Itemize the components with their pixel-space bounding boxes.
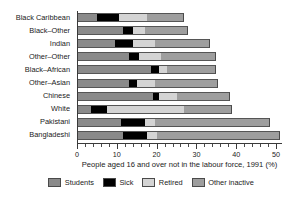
bar-segment-sick bbox=[129, 52, 139, 61]
category-label: Black Caribbean bbox=[0, 14, 70, 22]
bar-row bbox=[77, 105, 232, 114]
legend-label: Retired bbox=[159, 178, 183, 187]
bar-segment-retired bbox=[145, 118, 155, 127]
category-label: Bangladeshi bbox=[0, 131, 70, 139]
x-tick-minor bbox=[149, 144, 150, 147]
x-tick-minor bbox=[93, 144, 94, 147]
bar-segment-retired bbox=[137, 79, 155, 88]
legend-swatch-retired bbox=[142, 178, 155, 187]
category-label: Other–Asian bbox=[0, 79, 70, 87]
x-tick-major bbox=[117, 144, 118, 149]
plot-area bbox=[77, 11, 282, 142]
category-label: Indian bbox=[0, 40, 70, 48]
bar-segment-students bbox=[77, 65, 151, 74]
bar-segment-sick bbox=[115, 39, 133, 48]
bar-segment-other-inactive bbox=[145, 26, 189, 35]
bar-segment-other-inactive bbox=[155, 39, 211, 48]
bar-segment-students bbox=[77, 131, 123, 140]
bar-row bbox=[77, 79, 218, 88]
x-tick-minor bbox=[165, 144, 166, 147]
x-tick-minor bbox=[101, 144, 102, 147]
x-tick-major bbox=[77, 144, 78, 149]
bar-segment-sick bbox=[123, 26, 133, 35]
category-label: Other–Other bbox=[0, 53, 70, 61]
legend-label: Sick bbox=[119, 178, 133, 187]
category-label: Chinese bbox=[0, 92, 70, 100]
bar-segment-students bbox=[77, 26, 123, 35]
bar-segment-retired bbox=[139, 52, 161, 61]
category-label: Pakistani bbox=[0, 118, 70, 126]
stacked-bar-chart: Black CaribbeanBlack–OtherIndianOther–Ot… bbox=[0, 0, 302, 203]
x-tick-label: 0 bbox=[75, 150, 79, 159]
bar-segment-retired bbox=[133, 26, 145, 35]
bar-segment-retired bbox=[159, 92, 177, 101]
bar-segment-sick bbox=[121, 118, 145, 127]
x-tick-minor bbox=[244, 144, 245, 147]
x-tick-minor bbox=[220, 144, 221, 147]
legend-swatch-students bbox=[48, 178, 61, 187]
bar-row bbox=[77, 92, 230, 101]
bar-segment-students bbox=[77, 105, 91, 114]
x-tick-minor bbox=[109, 144, 110, 147]
bar-segment-retired bbox=[133, 39, 155, 48]
bar-row bbox=[77, 52, 216, 61]
legend-label: Other inactive bbox=[208, 178, 254, 187]
bar-segment-students bbox=[77, 92, 153, 101]
y-axis-line bbox=[77, 11, 78, 144]
bar-segment-sick bbox=[123, 131, 147, 140]
x-tick-minor bbox=[173, 144, 174, 147]
x-tick-minor bbox=[85, 144, 86, 147]
legend-swatch-sick bbox=[103, 178, 116, 187]
legend-item: Students bbox=[48, 178, 94, 187]
legend-swatch-other-inactive bbox=[192, 178, 205, 187]
bar-segment-sick bbox=[97, 13, 119, 22]
x-tick-label: 50 bbox=[272, 150, 280, 159]
x-tick-major bbox=[236, 144, 237, 149]
x-axis-label: People aged 16 and over not in the labou… bbox=[77, 160, 282, 169]
category-label: White bbox=[0, 105, 70, 113]
x-tick-minor bbox=[125, 144, 126, 147]
bar-segment-sick bbox=[151, 65, 159, 74]
x-tick-minor bbox=[228, 144, 229, 147]
legend-item: Sick bbox=[103, 178, 133, 187]
bar-segment-other-inactive bbox=[155, 79, 219, 88]
bar-segment-other-inactive bbox=[167, 65, 217, 74]
bar-row bbox=[77, 118, 270, 127]
bar-row bbox=[77, 13, 184, 22]
x-tick-major bbox=[196, 144, 197, 149]
bar-segment-other-inactive bbox=[157, 131, 280, 140]
x-tick-minor bbox=[204, 144, 205, 147]
bar-segment-students bbox=[77, 118, 121, 127]
bar-segment-other-inactive bbox=[184, 105, 232, 114]
x-tick-minor bbox=[141, 144, 142, 147]
bar-segment-students bbox=[77, 52, 129, 61]
bar-segment-sick bbox=[129, 79, 137, 88]
x-tick-minor bbox=[188, 144, 189, 147]
x-tick-major bbox=[157, 144, 158, 149]
bar-segment-retired bbox=[159, 65, 167, 74]
x-tick-minor bbox=[180, 144, 181, 147]
x-tick-label: 30 bbox=[192, 150, 200, 159]
bar-segment-other-inactive bbox=[177, 92, 231, 101]
bar-segment-other-inactive bbox=[161, 52, 217, 61]
bar-segment-other-inactive bbox=[147, 13, 185, 22]
legend-item: Other inactive bbox=[192, 178, 254, 187]
category-axis-labels: Black CaribbeanBlack–OtherIndianOther–Ot… bbox=[0, 11, 74, 142]
x-tick-minor bbox=[268, 144, 269, 147]
x-tick-minor bbox=[260, 144, 261, 147]
bar-row bbox=[77, 65, 216, 74]
bar-segment-retired bbox=[107, 105, 185, 114]
bar-segment-sick bbox=[91, 105, 107, 114]
bar-segment-retired bbox=[119, 13, 147, 22]
bar-row bbox=[77, 131, 280, 140]
category-label: Black–Other bbox=[0, 27, 70, 35]
x-tick-label: 40 bbox=[232, 150, 240, 159]
bar-segment-students bbox=[77, 13, 97, 22]
bar-segment-retired bbox=[147, 131, 157, 140]
x-tick-minor bbox=[252, 144, 253, 147]
bar-segment-students bbox=[77, 79, 129, 88]
bar-row bbox=[77, 26, 188, 35]
category-label: Black–African bbox=[0, 66, 70, 74]
x-tick-label: 20 bbox=[153, 150, 161, 159]
legend-label: Students bbox=[65, 178, 94, 187]
